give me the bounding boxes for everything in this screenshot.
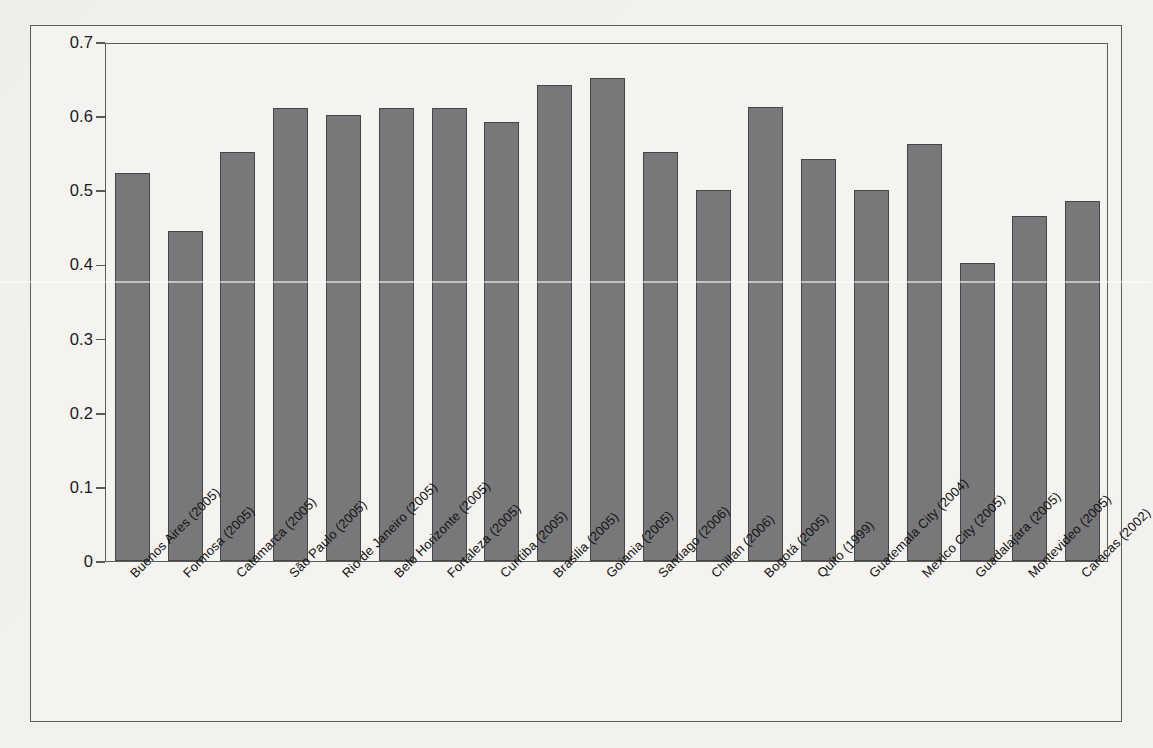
y-axis-tick-label: 0.6	[47, 107, 93, 126]
bar	[801, 159, 836, 561]
y-axis-tick-mark	[96, 487, 105, 489]
bar	[379, 108, 414, 561]
bar	[590, 78, 625, 561]
bar	[484, 122, 519, 561]
bar	[748, 107, 783, 561]
y-axis-tick-label: 0.5	[47, 181, 93, 200]
bar	[537, 85, 572, 561]
y-axis-tick-mark	[96, 265, 105, 267]
y-axis-tick-mark	[96, 561, 105, 563]
bar	[273, 108, 308, 561]
y-axis-tick-mark	[96, 413, 105, 415]
bar	[643, 152, 678, 561]
y-axis-tick-label: 0.4	[47, 255, 93, 274]
bar	[696, 190, 731, 561]
y-axis-tick-label: 0.3	[47, 330, 93, 349]
bar	[115, 173, 150, 561]
y-axis-tick-label: 0	[47, 552, 93, 571]
bar	[326, 115, 361, 561]
y-axis-tick-mark	[96, 42, 105, 44]
y-axis-tick-label: 0.7	[47, 33, 93, 52]
bar	[854, 190, 889, 561]
y-axis-tick-label: 0.1	[47, 478, 93, 497]
bar	[220, 152, 255, 561]
y-axis-tick-mark	[96, 339, 105, 341]
y-axis-tick-mark	[96, 116, 105, 118]
y-axis-tick-mark	[96, 190, 105, 192]
y-axis-tick-label: 0.2	[47, 404, 93, 423]
